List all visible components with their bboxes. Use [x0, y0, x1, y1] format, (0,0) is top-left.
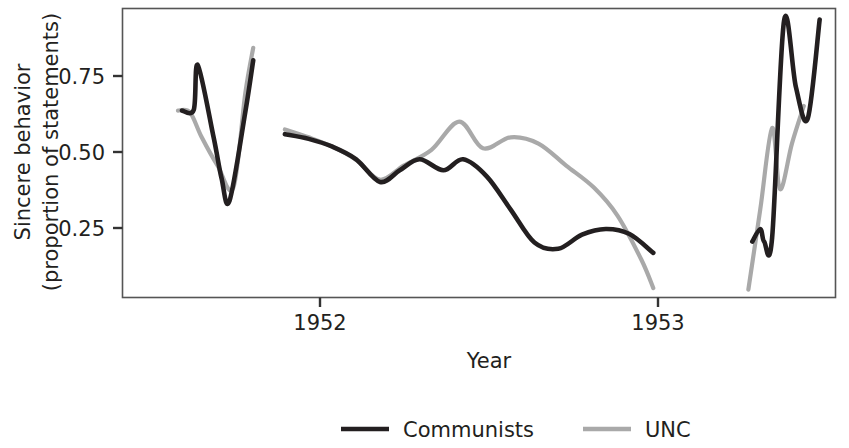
- chart-figure: 0.75 0.50 0.25 1952 1953 Year Sincere be…: [0, 0, 849, 448]
- y-tick-label-025: 0.25: [58, 217, 105, 241]
- x-tick-label-1953: 1953: [631, 311, 684, 335]
- y-tick-label-075: 0.75: [58, 65, 105, 89]
- y-axis-title-line2: (proportion of statements): [39, 13, 63, 291]
- x-axis-title: Year: [466, 349, 512, 373]
- plot-frame: [123, 9, 836, 298]
- x-axis-ticks: [320, 298, 658, 308]
- x-tick-label-1952: 1952: [293, 311, 346, 335]
- legend-label-communists: Communists: [403, 418, 534, 442]
- y-axis-title-line1: Sincere behavior: [11, 63, 35, 240]
- legend: Communists UNC: [341, 418, 691, 442]
- line-chart: 0.75 0.50 0.25 1952 1953 Year Sincere be…: [0, 0, 849, 448]
- y-axis-ticks: [113, 76, 123, 228]
- y-tick-label-050: 0.50: [58, 141, 105, 165]
- legend-label-unc: UNC: [645, 418, 691, 442]
